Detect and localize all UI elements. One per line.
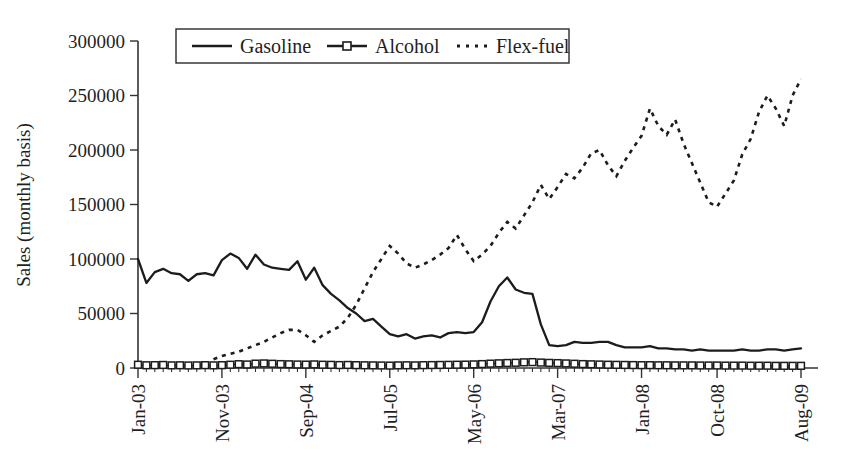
series-marker-alcohol xyxy=(403,362,410,369)
series-marker-alcohol xyxy=(571,360,578,367)
series-marker-alcohol xyxy=(596,361,603,368)
series-marker-alcohol xyxy=(454,361,461,368)
y-axis-title: Sales (monthly basis) xyxy=(13,123,35,287)
series-marker-alcohol xyxy=(495,360,502,367)
x-axis-tick-label: Mar-07 xyxy=(548,384,569,441)
series-marker-alcohol xyxy=(512,359,519,366)
series-marker-alcohol xyxy=(680,362,687,369)
series-marker-alcohol xyxy=(621,362,628,369)
y-axis-tick-label: 150000 xyxy=(68,194,125,215)
series-marker-alcohol xyxy=(722,362,729,369)
series-marker-alcohol xyxy=(764,362,771,369)
series-marker-alcohol xyxy=(655,362,662,369)
series-marker-alcohol xyxy=(193,362,200,369)
series-marker-alcohol xyxy=(386,362,393,369)
series-marker-alcohol xyxy=(395,362,402,369)
series-marker-alcohol xyxy=(630,362,637,369)
series-marker-alcohol xyxy=(319,361,326,368)
series-marker-alcohol xyxy=(638,362,645,369)
series-marker-alcohol xyxy=(227,361,234,368)
series-marker-alcohol xyxy=(772,362,779,369)
series-marker-alcohol xyxy=(370,362,377,369)
series-marker-alcohol xyxy=(302,361,309,368)
y-axis-tick-label: 250000 xyxy=(68,85,125,106)
series-marker-alcohol xyxy=(613,361,620,368)
series-marker-alcohol xyxy=(151,362,158,369)
series-marker-alcohol xyxy=(336,362,343,369)
series-marker-alcohol xyxy=(160,362,167,369)
y-axis-tick-label: 50000 xyxy=(78,303,126,324)
series-marker-alcohol xyxy=(412,362,419,369)
series-marker-alcohol xyxy=(470,361,477,368)
y-axis-tick-label: 200000 xyxy=(68,140,125,161)
series-marker-alcohol xyxy=(697,362,704,369)
series-marker-alcohol xyxy=(521,359,528,366)
series-marker-alcohol xyxy=(353,362,360,369)
series-marker-alcohol xyxy=(487,360,494,367)
chart-legend: GasolineAlcoholFlex-fuel xyxy=(176,29,570,63)
series-marker-alcohol xyxy=(546,359,553,366)
series-marker-alcohol xyxy=(689,362,696,369)
x-axis-tick-label: Sep-04 xyxy=(296,384,317,438)
y-axis-tick-label: 300000 xyxy=(68,31,125,52)
series-marker-alcohol xyxy=(277,361,284,368)
legend-item-label: Alcohol xyxy=(375,35,440,57)
series-marker-alcohol xyxy=(605,361,612,368)
series-marker-alcohol xyxy=(739,362,746,369)
x-axis-tick-label: May-06 xyxy=(464,384,485,444)
chart-container: 050000100000150000200000250000300000 Jan… xyxy=(0,0,858,475)
series-marker-alcohol xyxy=(529,359,536,366)
series-marker-alcohol xyxy=(747,362,754,369)
series-marker-alcohol xyxy=(168,362,175,369)
series-marker-alcohol xyxy=(328,361,335,368)
series-marker-alcohol xyxy=(210,362,217,369)
series-marker-alcohol xyxy=(143,362,150,369)
series-marker-alcohol xyxy=(554,360,561,367)
series-marker-alcohol xyxy=(789,362,796,369)
series-marker-alcohol xyxy=(177,362,184,369)
x-axis-tick-label: Jul-05 xyxy=(380,384,401,432)
series-marker-alcohol xyxy=(252,360,259,367)
series-marker-alcohol xyxy=(420,362,427,369)
series-marker-alcohol xyxy=(479,361,486,368)
series-marker-alcohol xyxy=(537,359,544,366)
series-marker-alcohol xyxy=(714,362,721,369)
series-marker-alcohol xyxy=(286,361,293,368)
series-marker-alcohol xyxy=(378,362,385,369)
series-marker-alcohol xyxy=(705,362,712,369)
x-axis-tick-label: Oct-08 xyxy=(707,384,728,437)
series-marker-alcohol xyxy=(462,361,469,368)
legend-item-label: Flex-fuel xyxy=(496,35,570,57)
x-axis-tick-label: Aug-09 xyxy=(791,384,812,442)
series-marker-alcohol xyxy=(445,361,452,368)
series-marker-alcohol xyxy=(244,361,251,368)
series-marker-alcohol xyxy=(579,361,586,368)
series-marker-alcohol xyxy=(202,362,209,369)
y-axis-tick-label: 100000 xyxy=(68,249,125,270)
legend-swatch-square-icon xyxy=(343,42,351,50)
series-marker-alcohol xyxy=(798,362,805,369)
series-marker-alcohol xyxy=(504,360,511,367)
legend-item-label: Gasoline xyxy=(240,35,311,57)
series-marker-alcohol xyxy=(311,361,318,368)
series-marker-alcohol xyxy=(185,362,192,369)
x-axis-tick-label: Nov-03 xyxy=(212,384,233,442)
series-marker-alcohol xyxy=(672,362,679,369)
series-marker-alcohol xyxy=(135,361,142,368)
series-marker-alcohol xyxy=(361,362,368,369)
series-marker-alcohol xyxy=(588,361,595,368)
line-chart: 050000100000150000200000250000300000 Jan… xyxy=(0,0,858,475)
series-marker-alcohol xyxy=(756,362,763,369)
x-axis-tick-label: Jan-08 xyxy=(632,384,653,435)
y-axis-tick-label: 0 xyxy=(116,358,126,379)
series-marker-alcohol xyxy=(428,362,435,369)
x-axis-tick-label: Jan-03 xyxy=(128,384,149,435)
series-marker-alcohol xyxy=(730,362,737,369)
series-marker-alcohol xyxy=(294,361,301,368)
series-marker-alcohol xyxy=(260,360,267,367)
series-marker-alcohol xyxy=(663,362,670,369)
series-marker-alcohol xyxy=(269,360,276,367)
series-marker-alcohol xyxy=(235,361,242,368)
series-marker-alcohol xyxy=(437,362,444,369)
series-marker-alcohol xyxy=(344,362,351,369)
